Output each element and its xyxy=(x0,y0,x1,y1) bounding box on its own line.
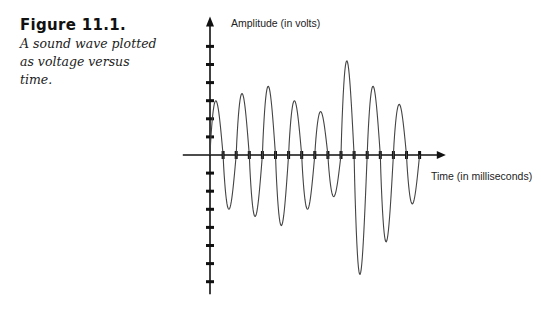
wave-line xyxy=(210,61,420,274)
y-tick xyxy=(206,81,214,84)
waveform-chart: Amplitude (in volts) Time (in millisecon… xyxy=(0,0,541,321)
y-tick xyxy=(206,172,214,175)
y-tick xyxy=(206,280,214,283)
y-tick xyxy=(206,244,214,247)
wave-extrema xyxy=(217,61,414,275)
y-tick xyxy=(206,63,214,66)
y-tick xyxy=(206,45,214,48)
y-tick xyxy=(206,226,214,229)
y-tick xyxy=(206,99,214,102)
y-tick xyxy=(206,208,214,211)
y-tick xyxy=(206,190,214,193)
x-axis-arrow-icon xyxy=(437,151,446,159)
y-tick xyxy=(206,262,214,265)
y-tick xyxy=(206,135,214,138)
y-axis-arrow-icon xyxy=(206,16,214,26)
x-axis-label: Time (in milliseconds) xyxy=(431,170,532,182)
y-axis-label: Amplitude (in volts) xyxy=(231,17,320,29)
